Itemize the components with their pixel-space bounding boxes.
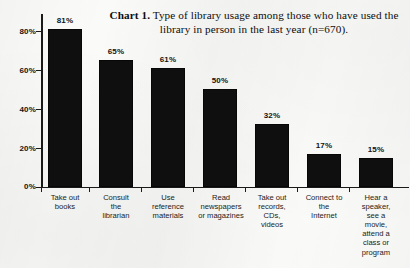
- bar-value-label: 50%: [200, 76, 240, 85]
- x-axis-tick: [41, 187, 42, 192]
- y-axis-tick: [36, 109, 42, 110]
- category-label: Consult the librarian: [90, 193, 142, 220]
- bar-chart-figure: Chart 1. Type of library usage among tho…: [0, 0, 410, 268]
- y-axis-tick: [36, 70, 42, 71]
- bar-value-label: 17%: [304, 141, 344, 150]
- bar: [151, 68, 185, 187]
- bar-value-label: 81%: [45, 16, 85, 25]
- category-label: Hear a speaker, see a movie, attend a cl…: [350, 193, 402, 257]
- bar-value-label: 15%: [356, 145, 396, 154]
- y-axis-line: [41, 14, 43, 188]
- category-label: Connect to the Internet: [296, 193, 352, 220]
- bar: [99, 60, 133, 187]
- y-axis-tick-label: 20%: [2, 144, 36, 153]
- y-axis-tick-label: 60%: [2, 66, 36, 75]
- y-axis-tick-label: 80%: [2, 27, 36, 36]
- y-axis-tick: [36, 31, 42, 32]
- y-axis-tick-label: 0%: [2, 182, 36, 191]
- x-axis-tick: [245, 187, 246, 192]
- bar: [48, 29, 82, 187]
- category-label: Read newspapers or magazines: [191, 193, 251, 220]
- bar-value-label: 65%: [96, 47, 136, 56]
- chart-title-text: Type of library usage among those who ha…: [150, 9, 398, 35]
- x-axis-tick: [297, 187, 298, 192]
- category-label: Take out records, CDs, videos: [246, 193, 298, 229]
- chart-title-label: Chart 1.: [110, 9, 151, 21]
- x-axis-tick: [89, 187, 90, 192]
- y-axis-tick: [36, 148, 42, 149]
- category-label: Take out books: [39, 193, 91, 211]
- x-axis-tick: [349, 187, 350, 192]
- y-axis-tick-label: 40%: [2, 105, 36, 114]
- bar: [203, 89, 237, 187]
- bar-value-label: 32%: [252, 111, 292, 120]
- category-label: Use reference materials: [142, 193, 194, 220]
- x-axis-tick: [141, 187, 142, 192]
- bar: [359, 158, 393, 187]
- chart-title: Chart 1. Type of library usage among tho…: [104, 8, 404, 36]
- bar: [255, 124, 289, 186]
- bar: [307, 154, 341, 187]
- bar-value-label: 61%: [148, 55, 188, 64]
- x-axis-tick: [193, 187, 194, 192]
